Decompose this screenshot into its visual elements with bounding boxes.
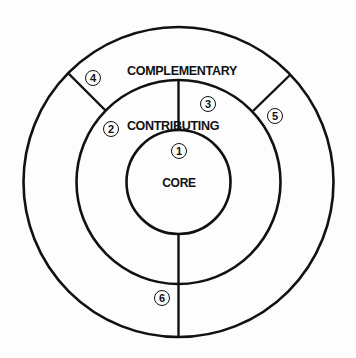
marker-1: 1: [171, 143, 187, 159]
complementary-label: COMPLEMENTARY: [127, 64, 237, 78]
core-label: CORE: [162, 176, 195, 190]
divider-upper-right: [253, 75, 290, 111]
marker-5: 5: [267, 108, 283, 124]
marker-3: 3: [200, 96, 216, 112]
marker-6: 6: [154, 290, 170, 306]
marker-4: 4: [85, 70, 101, 86]
contributing-label: CONTRIBUTING: [127, 119, 219, 133]
marker-2: 2: [103, 121, 119, 137]
